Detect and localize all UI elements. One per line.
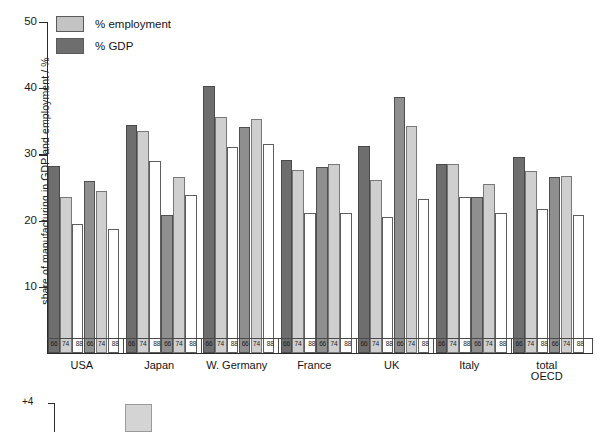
bottom-chart-bar [125,404,152,432]
bar [48,166,60,353]
group-separator [511,338,512,353]
group-label-italy: Italy [428,360,512,371]
bar [173,177,185,353]
bar [537,209,549,353]
bar [358,146,370,353]
y-axis-tick-label: 40 [0,81,37,93]
y-axis-tick-label: 50 [0,15,37,27]
group-label-japan: Japan [118,360,202,371]
group-label-uk: UK [350,360,434,371]
bar [227,147,239,353]
bar [251,119,263,353]
bar [328,164,340,353]
y-axis-tick [39,88,48,89]
group-separator [278,338,279,353]
bar [340,213,352,353]
bar [96,191,108,353]
bar [561,176,573,353]
bar [418,199,430,353]
group-label-w-germany: W. Germany [195,360,279,371]
bottom-axis-line [54,403,55,432]
bar [513,157,525,353]
group-separator [201,338,202,353]
bar [471,197,483,353]
group-separator [123,338,124,353]
y-axis-tick [39,287,48,288]
group-label-usa: USA [40,360,124,371]
group-separator [356,338,357,353]
legend-swatch-employment [56,16,84,32]
bar [108,229,120,353]
y-axis-tick [39,221,48,222]
x-axis-strip-top [47,338,593,339]
bar [203,86,215,353]
bar [60,197,72,353]
x-axis-strip-right-edge [592,338,593,353]
bar [126,125,138,353]
bar [292,170,304,353]
bar [495,213,507,353]
bar [382,217,394,353]
group-separator [433,338,434,353]
bar [281,160,293,353]
bar [436,164,448,353]
bar [149,161,161,353]
legend-item-employment: % employment [56,16,171,32]
y-axis-tick-label: 20 [0,214,37,226]
bar [549,177,561,353]
chart-legend: % employment % GDP [56,16,171,60]
y-axis-tick [39,154,48,155]
legend-item-gdp: % GDP [56,38,171,54]
bar [161,215,173,353]
bar [573,215,585,353]
bar [263,144,275,353]
bar [316,167,328,353]
bar [137,131,149,353]
legend-label-gdp: % GDP [95,40,133,52]
bar [185,195,197,353]
bar [370,180,382,353]
bar [215,117,227,353]
bar [304,213,316,353]
group-label-total-oecd: total OECD [505,360,589,382]
y-axis-tick-label: 30 [0,147,37,159]
bar [483,184,495,353]
manufacturing-share-figure: share of manufacturing in GDP and employ… [0,0,597,432]
bar [394,97,406,353]
bar [406,126,418,353]
bar [239,127,251,353]
legend-swatch-gdp [56,38,84,54]
bottom-partial-chart: +4 [0,396,597,432]
y-axis-tick [39,22,48,23]
y-axis-tick-label: 10 [0,280,37,292]
bar [447,164,459,353]
bar [72,224,84,353]
bar [84,181,96,353]
group-label-france: France [273,360,357,371]
legend-label-employment: % employment [95,18,171,30]
bar [525,171,537,353]
bottom-axis-label: +4 [22,396,33,407]
bar [459,197,471,353]
